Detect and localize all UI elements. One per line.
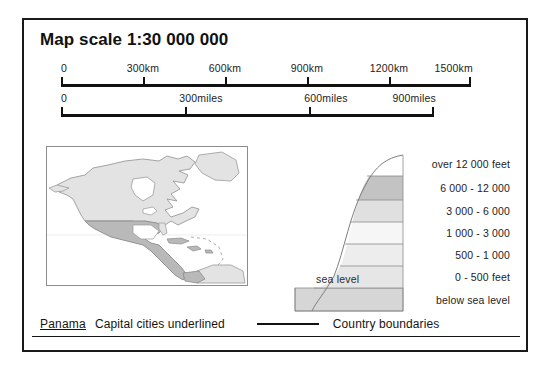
country-boundary-line-symbol: [257, 323, 319, 325]
scale-tick-label: 900miles: [392, 92, 436, 104]
elevation-band-500-1000: [294, 244, 404, 266]
island-puerto-rico: [205, 250, 213, 253]
scale-tick-label: 300km: [127, 62, 160, 74]
country-boundary-caption: Country boundaries: [333, 317, 440, 331]
scale-tick-label: 1500km: [434, 62, 473, 74]
landmass-south-america: [197, 265, 245, 283]
capital-city-caption: Capital cities underlined: [95, 317, 225, 331]
elevation-profile-diagram: [294, 142, 404, 312]
scale-tick-label: 300miles: [179, 92, 223, 104]
scale-tick: [389, 77, 391, 86]
elevation-label-over-12000: over 12 000 feet: [432, 158, 510, 170]
scale-tick-label: 900km: [291, 62, 324, 74]
island-cuba: [167, 238, 189, 244]
landmass-canada-usa: [57, 156, 199, 225]
map-legend-panel: Map scale 1:30 000 000 0 300km 600km 900…: [22, 18, 528, 352]
legend-bottom-rule: [32, 336, 520, 337]
elevation-band-6000-12000: [294, 176, 404, 200]
scale-tick: [225, 77, 227, 86]
island-hispaniola: [187, 246, 201, 251]
scale-tick: [143, 77, 145, 86]
scale-tick: [185, 107, 187, 116]
scale-tick-label: 0: [61, 92, 67, 104]
miles-scale-rule: [39, 107, 471, 118]
elevation-band-below-sea-level: [295, 288, 403, 311]
scale-tick: [469, 77, 471, 86]
elevation-label-below-sea-level: below sea level: [436, 294, 510, 306]
elevation-bands-group: [294, 150, 404, 288]
kilometres-scale-rule: [39, 77, 471, 88]
north-america-locator-map: [46, 146, 248, 286]
elevation-label-3000-6000: 3 000 - 6 000: [446, 205, 510, 217]
scale-tick: [432, 107, 434, 116]
elevation-band-labels: over 12 000 feet 6 000 - 12 000 3 000 - …: [406, 142, 510, 312]
scale-tick-label: 0: [61, 62, 67, 74]
elevation-label-500-1000: 500 - 1 000: [455, 249, 510, 261]
elevation-label-1000-3000: 1 000 - 3 000: [446, 227, 510, 239]
locator-map-graphic: [47, 147, 247, 285]
scale-tick-label: 600km: [209, 62, 242, 74]
elevation-band-3000-6000: [294, 200, 404, 222]
kilometres-scale-bar: 0 300km 600km 900km 1200km 1500km: [39, 62, 471, 88]
scale-tick: [309, 107, 311, 116]
elevation-key: sea level over 12 000 feet 6 000 - 12 00…: [294, 142, 510, 312]
bottom-legend-row: Panama Capital cities underlined Country…: [40, 312, 514, 336]
scale-bar-line: [61, 114, 434, 117]
sea-level-label: sea level: [316, 273, 359, 285]
elevation-band-1000-3000: [294, 222, 404, 244]
scale-tick-label: 1200km: [370, 62, 409, 74]
elevation-label-6000-12000: 6 000 - 12 000: [440, 182, 510, 194]
scale-tick: [61, 107, 63, 116]
kilometres-scale-labels: 0 300km 600km 900km 1200km 1500km: [39, 62, 471, 77]
scale-tick: [61, 77, 63, 86]
miles-scale-bar: 0 300miles 600miles 900miles: [39, 92, 471, 118]
elevation-label-0-500: 0 - 500 feet: [455, 271, 510, 283]
landmass-greenland: [195, 152, 239, 181]
capital-city-sample-label: Panama: [40, 317, 86, 331]
page-title: Map scale 1:30 000 000: [40, 30, 228, 50]
scale-tick-label: 600miles: [304, 92, 348, 104]
scale-bar-line: [61, 84, 471, 87]
scale-tick: [307, 77, 309, 86]
miles-scale-labels: 0 300miles 600miles 900miles: [39, 92, 471, 107]
elevation-band-over-12000: [294, 150, 404, 176]
